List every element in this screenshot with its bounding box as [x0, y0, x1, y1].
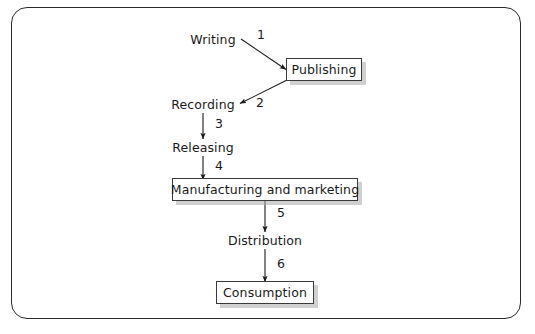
edge-number-5: 5	[277, 206, 285, 220]
node-manufacturing-box: Manufacturing and marketing	[172, 178, 358, 201]
node-releasing: Releasing	[172, 141, 233, 155]
edge-number-4: 4	[215, 159, 223, 173]
edge-number-1: 1	[257, 28, 265, 42]
edge-number-6: 6	[277, 257, 285, 271]
node-consumption-label: Consumption	[223, 286, 307, 300]
node-manufacturing-label: Manufacturing and marketing	[171, 183, 359, 197]
node-publishing-box: Publishing	[286, 58, 362, 81]
node-distribution: Distribution	[228, 234, 302, 248]
node-consumption-box: Consumption	[216, 281, 314, 304]
edge-number-3: 3	[215, 117, 223, 131]
node-writing: Writing	[190, 33, 235, 47]
edge-1-line	[241, 39, 286, 70]
node-recording: Recording	[171, 98, 234, 112]
node-publishing-label: Publishing	[292, 63, 357, 77]
edge-number-2: 2	[256, 96, 264, 110]
